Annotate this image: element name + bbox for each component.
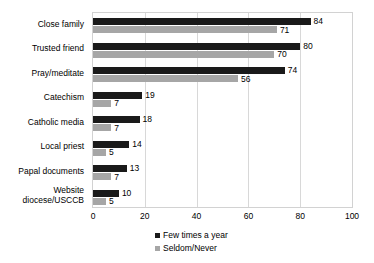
bar-value-label: 5 [109,148,114,157]
bar-value-label: 14 [132,140,141,149]
bar-few-times-a-year [93,43,300,50]
bar-value-label: 84 [314,17,323,26]
bar-seldom-never [93,124,111,131]
bar-seldom-never [93,100,111,107]
plot-area: 847180707456197187145137105 [92,12,353,208]
bar-seldom-never [93,149,106,156]
bar-value-label: 56 [241,75,250,84]
bar-group: 145 [93,136,352,161]
bar-seldom-never [93,26,277,33]
bar-value-label: 7 [114,124,119,133]
category-axis: Close familyTrusted friendPray/meditateC… [0,12,88,208]
bar-group: 7456 [93,62,352,87]
bar-value-label: 10 [122,189,131,198]
bar-value-label: 80 [303,42,312,51]
bar-chart: Close familyTrusted friendPray/meditateC… [0,0,374,263]
category-label: Catholic media [0,118,84,128]
x-tick-label: 20 [140,211,149,221]
x-axis: 020406080100 [92,209,353,225]
legend-label: Few times a year [163,231,228,240]
bar-value-label: 18 [143,115,152,124]
bar-few-times-a-year [93,18,311,25]
x-tick-label: 100 [345,211,359,221]
category-label: Local priest [0,142,84,152]
bar-group: 187 [93,111,352,136]
legend-swatch-icon [155,246,160,251]
chart-legend: Few times a yearSeldom/Never [155,230,315,256]
bar-few-times-a-year [93,165,127,172]
bar-seldom-never [93,198,106,205]
bar-group: 197 [93,87,352,112]
bar-few-times-a-year [93,116,140,123]
category-label: Papal documents [0,167,84,177]
bar-seldom-never [93,173,111,180]
bar-few-times-a-year [93,190,119,197]
bar-seldom-never [93,51,274,58]
bar-value-label: 13 [130,164,139,173]
bar-value-label: 7 [114,99,119,108]
legend-item[interactable]: Few times a year [155,230,315,241]
x-tick-label: 0 [91,211,96,221]
x-tick-label: 80 [295,211,304,221]
category-label: Pray/meditate [0,69,84,79]
bar-few-times-a-year [93,67,285,74]
x-tick-label: 60 [244,211,253,221]
bar-group: 105 [93,185,352,210]
bar-value-label: 7 [114,173,119,182]
category-label: Website diocese/USCCB [0,186,84,205]
legend-label: Seldom/Never [163,244,217,253]
category-label: Trusted friend [0,44,84,54]
bar-value-label: 5 [109,197,114,206]
legend-item[interactable]: Seldom/Never [155,243,315,254]
category-label: Close family [0,20,84,30]
bar-group: 8471 [93,13,352,38]
bar-value-label: 74 [288,66,297,75]
legend-swatch-icon [155,233,160,238]
bar-value-label: 71 [280,26,289,35]
x-tick-label: 40 [192,211,201,221]
bar-group: 137 [93,160,352,185]
bar-value-label: 19 [145,91,154,100]
category-label: Catechism [0,93,84,103]
bar-value-label: 70 [277,50,286,59]
bar-group: 8070 [93,38,352,63]
bar-seldom-never [93,75,238,82]
